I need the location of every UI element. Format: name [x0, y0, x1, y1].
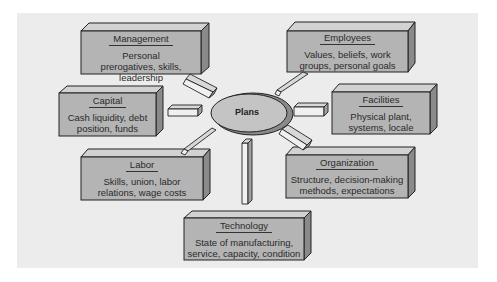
capital-title: Capital	[89, 95, 127, 108]
connector-facilities	[294, 103, 328, 116]
management-title: Management	[109, 33, 172, 46]
connector-organization	[279, 125, 312, 150]
labor-title: Labor	[126, 159, 158, 172]
facilities-box: Facilities Physical plant, systems, loca…	[332, 94, 430, 133]
organization-box: Organization Structure, decision-making …	[286, 157, 408, 196]
organization-description: Structure, decision-making methods, expe…	[286, 174, 408, 196]
connector-capital	[168, 105, 202, 116]
capital-description: Cash liquidity, debt position, funds	[59, 112, 156, 134]
capital-box: Capital Cash liquidity, debt position, f…	[59, 95, 156, 134]
technology-description: State of manufacturing, service, capacit…	[184, 237, 304, 259]
connector-employees	[275, 72, 308, 96]
employees-box: Employees Values, beliefs, work groups, …	[287, 32, 408, 71]
plans-label: Plans	[235, 107, 259, 117]
technology-title: Technology	[216, 220, 272, 233]
management-description: Personal prerogatives, skills, leadershi…	[81, 50, 201, 83]
connector-technology	[242, 139, 252, 204]
labor-box: Labor Skills, union, labor relations, wa…	[81, 159, 203, 198]
facilities-description: Physical plant, systems, locale	[332, 111, 430, 133]
employees-description: Values, beliefs, work groups, personal g…	[287, 49, 408, 71]
technology-box: Technology State of manufacturing, servi…	[184, 220, 304, 259]
labor-description: Skills, union, labor relations, wage cos…	[81, 176, 203, 198]
facilities-title: Facilities	[359, 94, 404, 107]
management-box: Management Personal prerogatives, skills…	[81, 33, 201, 83]
organization-title: Organization	[316, 157, 378, 170]
employees-title: Employees	[320, 32, 375, 45]
